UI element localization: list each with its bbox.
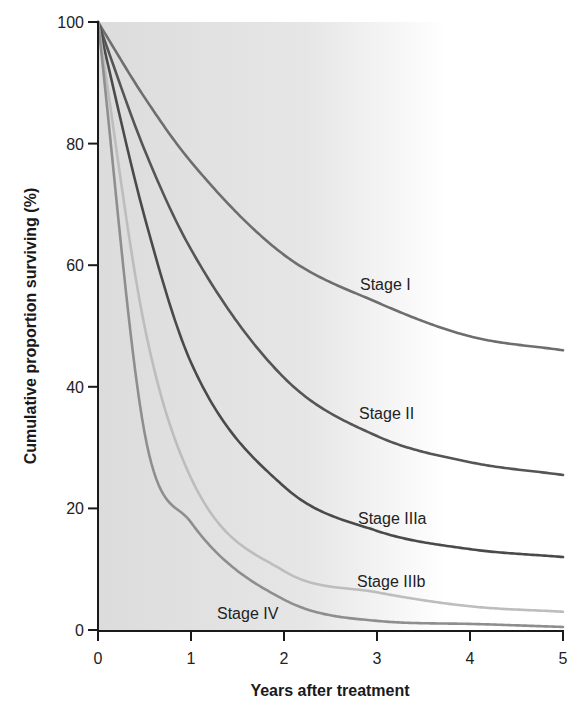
y-tick-label: 40 [66,379,84,396]
label-stage-iiib: Stage IIIb [357,573,426,590]
y-tick-label: 20 [66,500,84,517]
survival-chart: Stage IStage IIStage IIIaStage IIIbStage… [0,0,582,714]
x-tick-label: 3 [373,650,382,667]
x-tick-label: 0 [94,650,103,667]
y-tick-label: 60 [66,257,84,274]
y-tick-label: 80 [66,136,84,153]
x-tick-label: 2 [280,650,289,667]
y-tick-label: 0 [75,622,84,639]
y-axis-title: Cumulative proportion surviving (%) [22,188,39,464]
y-tick-label: 100 [57,14,84,31]
x-tick-label: 1 [187,650,196,667]
x-axis-title: Years after treatment [250,682,410,699]
label-stage-ii: Stage II [359,405,414,422]
label-stage-iiia: Stage IIIa [358,510,427,527]
x-tick-label: 4 [466,650,475,667]
x-ticks: 012345 [94,631,568,667]
plot-background [98,22,563,630]
x-tick-label: 5 [559,650,568,667]
y-ticks: 020406080100 [57,14,98,639]
label-stage-i: Stage I [360,276,411,293]
label-stage-iv: Stage IV [217,605,279,622]
